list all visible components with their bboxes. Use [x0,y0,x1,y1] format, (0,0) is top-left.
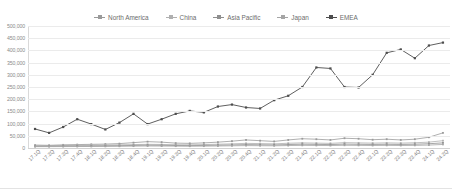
data-point-marker [428,141,430,143]
data-point-marker [147,141,149,143]
data-point-marker [386,138,388,140]
legend-label: Asia Pacific [227,14,260,21]
x-axis-tick-label: 23.3Q [393,148,407,162]
y-axis-tick-label: 500,000 [7,23,25,29]
data-point-marker [133,142,135,144]
data-point-marker [400,145,402,147]
x-axis-tick-label: 18.4Q [126,148,140,162]
legend-item-japan[interactable]: Japan [277,14,308,21]
data-point-marker [133,145,135,147]
plot-area: 050,000100,000150,000200,000250,000300,0… [0,26,452,191]
y-axis-tick-label: 200,000 [7,96,25,102]
data-point-marker [358,138,360,140]
data-point-marker [231,145,233,147]
data-point-marker [104,128,106,130]
data-point-marker [372,145,374,147]
legend-marker-icon [277,14,288,21]
data-point-marker [301,138,303,140]
data-point-marker [358,144,360,146]
x-axis-tick-label: 24.2Q [435,148,449,162]
x-axis-tick-label: 20.4Q [238,148,252,162]
data-point-marker [259,145,261,147]
data-point-marker [119,145,121,147]
x-axis-tick-label: 17.4Q [69,148,83,162]
legend-item-emea[interactable]: EMEA [326,14,358,21]
gridline [28,99,450,100]
data-point-marker [273,141,275,143]
legend-item-asia-pacific[interactable]: Asia Pacific [213,14,260,21]
legend-label: China [180,14,197,21]
data-point-marker [259,107,261,109]
legend-label: Japan [291,14,308,21]
gridline [28,136,450,137]
data-point-marker [287,95,289,97]
y-axis-tick-label: 0 [22,145,25,151]
data-point-marker [245,106,247,108]
x-axis-tick-label: 21.3Q [280,148,294,162]
y-axis-tick-label: 100,000 [7,121,25,127]
data-point-marker [315,66,317,68]
data-point-marker [217,141,219,143]
x-axis-tick-label: 17.1Q [27,148,41,162]
y-axis-tick-label: 350,000 [7,60,25,66]
gridline [28,63,450,64]
legend-marker-icon [326,14,337,21]
x-axis-tick-label: 22.4Q [351,148,365,162]
legend-marker-icon [94,14,105,21]
x-axis-tick-label: 17.2Q [41,148,55,162]
x-axis-tick-label: 21.1Q [252,148,266,162]
x-axis-tick-label: 19.1Q [140,148,154,162]
gridline [28,124,450,125]
x-axis-tick-label: 24.1Q [421,148,435,162]
data-point-marker [175,113,177,115]
y-axis-tick-label: 400,000 [7,47,25,53]
data-point-marker [287,145,289,147]
data-point-marker [161,118,163,120]
data-point-marker [132,113,134,115]
legend-marker-icon [166,14,177,21]
x-axis-tick-label: 20.3Q [224,148,238,162]
gridline [28,75,450,76]
data-point-marker [245,145,247,147]
data-point-marker [203,142,205,144]
y-axis-tick-label: 450,000 [7,35,25,41]
chart-title [0,0,452,5]
data-point-marker [400,139,402,141]
x-axis-tick-label: 23.1Q [365,148,379,162]
x-axis-tick-label: 21.2Q [266,148,280,162]
data-point-marker [442,41,444,43]
x-axis-tick-label: 21.4Q [294,148,308,162]
gridline [28,87,450,88]
data-point-marker [259,140,261,142]
gridline [28,38,450,39]
legend-item-china[interactable]: China [166,14,197,21]
data-point-marker [203,145,205,147]
data-point-marker [344,144,346,146]
data-point-marker [315,138,317,140]
data-point-marker [175,142,177,144]
y-axis-tick-label: 300,000 [7,72,25,78]
data-point-marker [161,141,163,143]
footer-divider [0,188,452,189]
gridline [28,111,450,112]
data-point-marker [161,145,163,147]
legend-label: North America [108,14,149,21]
x-axis-tick-label: 20.1Q [196,148,210,162]
legend-item-north-america[interactable]: North America [94,14,149,21]
quarterly-regional-line-chart: North AmericaChinaAsia PacificJapanEMEA … [0,0,452,191]
data-point-marker [48,132,50,134]
x-axis-tick-label: 18.2Q [97,148,111,162]
gridline [28,50,450,51]
gridline [28,26,450,27]
data-point-marker [301,144,303,146]
data-point-marker [344,137,346,139]
x-axis-tick-label: 18.1Q [83,148,97,162]
grid-area [28,26,450,148]
x-axis-tick-label: 18.3Q [111,148,125,162]
data-point-marker [76,118,78,120]
x-axis-tick-label: 19.3Q [168,148,182,162]
data-point-marker [217,105,219,107]
data-point-marker [287,139,289,141]
x-axis-tick-label: 17.3Q [55,148,69,162]
data-point-marker [189,145,191,147]
